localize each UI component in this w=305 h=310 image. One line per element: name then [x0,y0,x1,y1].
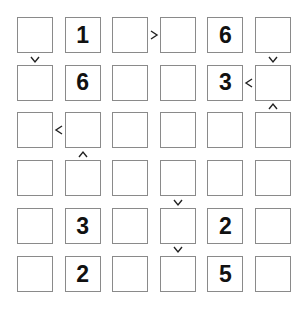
empty-cell[interactable] [112,208,148,244]
greater-than-icon [148,29,160,41]
empty-cell[interactable] [160,160,196,196]
empty-cell[interactable] [112,256,148,292]
empty-cell[interactable] [112,112,148,148]
chevron-down-icon [172,196,184,208]
chevron-down-icon [172,243,184,255]
given-cell: 1 [65,17,101,53]
empty-cell[interactable] [255,160,291,196]
empty-cell[interactable] [17,112,53,148]
empty-cell[interactable] [207,112,243,148]
empty-cell[interactable] [207,160,243,196]
empty-cell[interactable] [160,208,196,244]
given-cell: 6 [65,65,101,101]
less-than-icon [243,77,255,89]
empty-cell[interactable] [160,65,196,101]
chevron-up-icon [267,100,279,112]
less-than-icon [53,124,65,136]
given-cell: 6 [207,17,243,53]
empty-cell[interactable] [17,17,53,53]
given-cell: 2 [207,208,243,244]
empty-cell[interactable] [255,208,291,244]
given-cell: 3 [207,65,243,101]
empty-cell[interactable] [17,208,53,244]
empty-cell[interactable] [112,17,148,53]
empty-cell[interactable] [65,112,101,148]
futoshiki-board: 16633225 [0,0,305,310]
empty-cell[interactable] [255,17,291,53]
given-cell: 3 [65,208,101,244]
empty-cell[interactable] [17,160,53,196]
chevron-up-icon [77,148,89,160]
empty-cell[interactable] [17,256,53,292]
empty-cell[interactable] [160,256,196,292]
chevron-down-icon [267,53,279,65]
given-cell: 2 [65,256,101,292]
empty-cell[interactable] [17,65,53,101]
empty-cell[interactable] [112,160,148,196]
empty-cell[interactable] [112,65,148,101]
chevron-down-icon [29,53,41,65]
empty-cell[interactable] [65,160,101,196]
empty-cell[interactable] [160,112,196,148]
empty-cell[interactable] [255,112,291,148]
empty-cell[interactable] [255,65,291,101]
empty-cell[interactable] [255,256,291,292]
empty-cell[interactable] [160,17,196,53]
given-cell: 5 [207,256,243,292]
